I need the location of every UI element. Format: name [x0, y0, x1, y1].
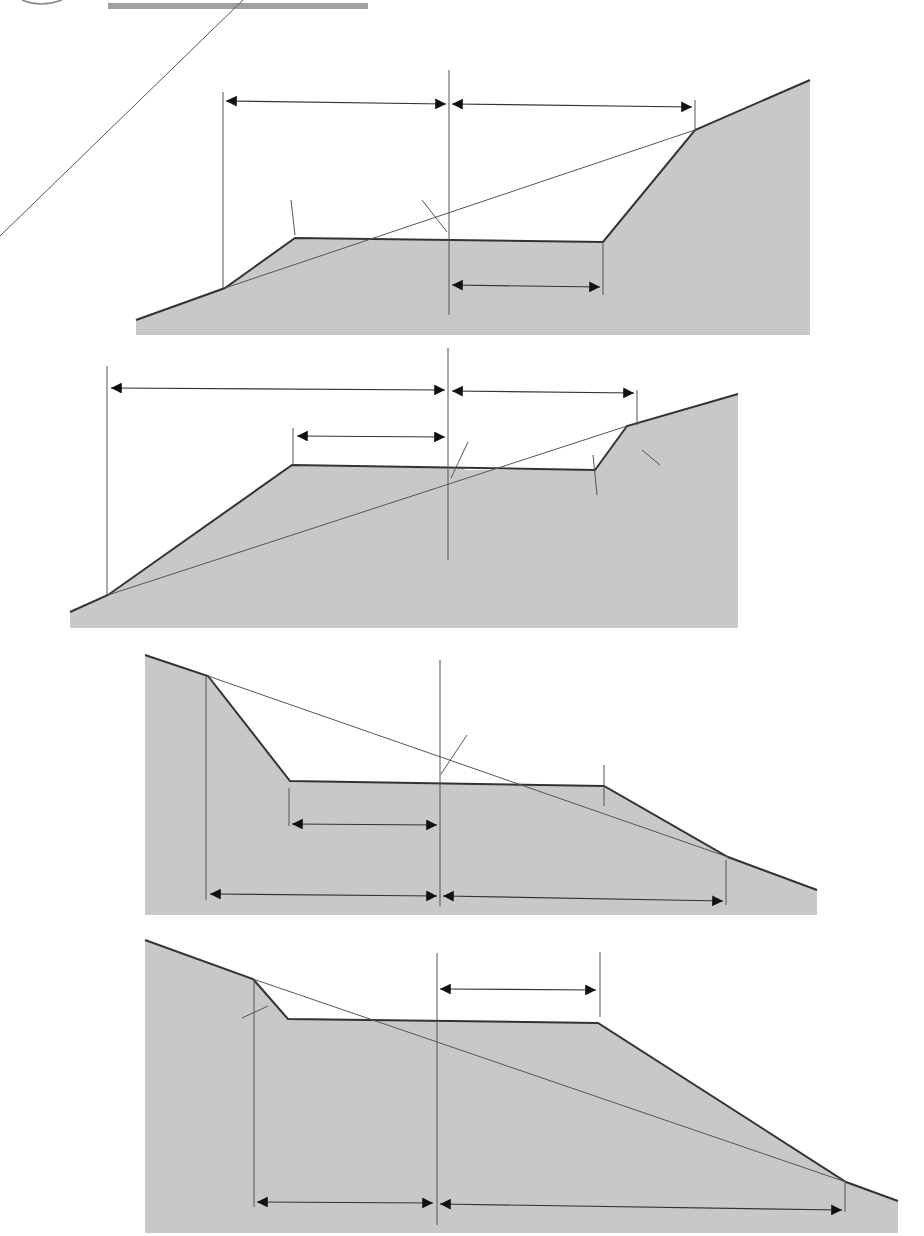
h-leader: [422, 200, 447, 232]
a1-leader: [291, 200, 295, 235]
header-decoration: [22, 0, 368, 9]
w1-dimension: [111, 388, 445, 390]
b-dimension: [297, 436, 445, 437]
h-leader: [441, 735, 467, 774]
w2-dimension: [452, 391, 634, 393]
w2-dimension: [452, 104, 692, 107]
ground-fill: [136, 80, 810, 335]
b-dimension: [440, 989, 596, 990]
ground-fill: [70, 394, 738, 628]
w1-dimension: [226, 101, 446, 104]
panel-d: [145, 940, 898, 1233]
cross-section-diagram: [0, 0, 924, 1236]
